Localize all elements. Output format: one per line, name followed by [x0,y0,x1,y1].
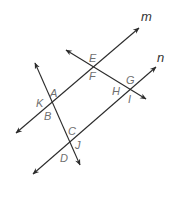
label-E: E [89,52,97,64]
line-m [16,28,139,133]
label-A: A [49,87,57,99]
label-C: C [68,125,76,137]
label-D: D [60,152,68,164]
transversal-left [35,63,80,165]
label-H: H [112,85,120,97]
label-n: n [157,50,164,65]
label-I: I [128,93,131,105]
label-J: J [74,139,81,151]
line-n [33,67,156,174]
geometry-diagram: m n A K B C J D E F G H I [0,0,192,201]
label-m: m [141,9,152,24]
label-K: K [36,97,44,109]
label-F: F [89,70,97,82]
label-B: B [44,110,51,122]
label-G: G [126,74,135,86]
